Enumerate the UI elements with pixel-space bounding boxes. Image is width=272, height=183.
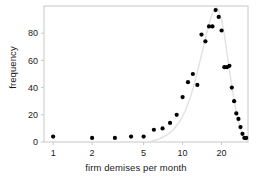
data-point bbox=[236, 117, 240, 121]
plot-area: 020406080 1251020 bbox=[0, 0, 272, 183]
y-tick-label: 40 bbox=[28, 83, 38, 93]
data-point bbox=[210, 24, 214, 28]
data-point bbox=[227, 64, 231, 68]
data-point bbox=[142, 134, 146, 138]
plot-frame bbox=[44, 6, 248, 142]
x-tick-label: 5 bbox=[141, 148, 146, 158]
data-points bbox=[51, 8, 248, 140]
x-tick-label: 2 bbox=[90, 148, 95, 158]
fitted-curve bbox=[149, 7, 246, 142]
frame-border bbox=[44, 6, 248, 142]
scatter-chart: 020406080 1251020 firm demises per month… bbox=[0, 0, 272, 183]
data-point bbox=[238, 125, 242, 129]
data-point bbox=[244, 136, 248, 140]
data-point bbox=[214, 8, 218, 12]
y-tick-label: 60 bbox=[28, 56, 38, 66]
y-axis-ticks: 020406080 bbox=[28, 28, 44, 147]
x-axis-title: firm demises per month bbox=[0, 162, 272, 173]
x-tick-label: 20 bbox=[217, 148, 227, 158]
data-point bbox=[240, 132, 244, 136]
y-axis-title: frequency bbox=[7, 28, 18, 108]
data-point bbox=[191, 72, 195, 76]
y-tick-label: 20 bbox=[28, 110, 38, 120]
data-point bbox=[199, 32, 203, 36]
data-point bbox=[232, 99, 236, 103]
data-point bbox=[195, 83, 199, 87]
data-point bbox=[217, 15, 221, 19]
data-point bbox=[230, 86, 234, 90]
data-point bbox=[181, 95, 185, 99]
y-tick-label: 0 bbox=[33, 137, 38, 147]
data-point bbox=[234, 111, 238, 115]
data-point bbox=[129, 134, 133, 138]
y-tick-label: 80 bbox=[28, 28, 38, 38]
x-tick-label: 10 bbox=[178, 148, 188, 158]
data-point bbox=[175, 113, 179, 117]
data-point bbox=[186, 80, 190, 84]
data-point bbox=[113, 136, 117, 140]
data-point bbox=[203, 39, 207, 43]
x-axis-ticks: 1251020 bbox=[51, 142, 227, 158]
data-point bbox=[152, 128, 156, 132]
data-point bbox=[90, 136, 94, 140]
data-point bbox=[51, 134, 55, 138]
x-tick-label: 1 bbox=[51, 148, 56, 158]
data-point bbox=[168, 121, 172, 125]
data-point bbox=[160, 126, 164, 130]
data-point bbox=[219, 28, 223, 32]
